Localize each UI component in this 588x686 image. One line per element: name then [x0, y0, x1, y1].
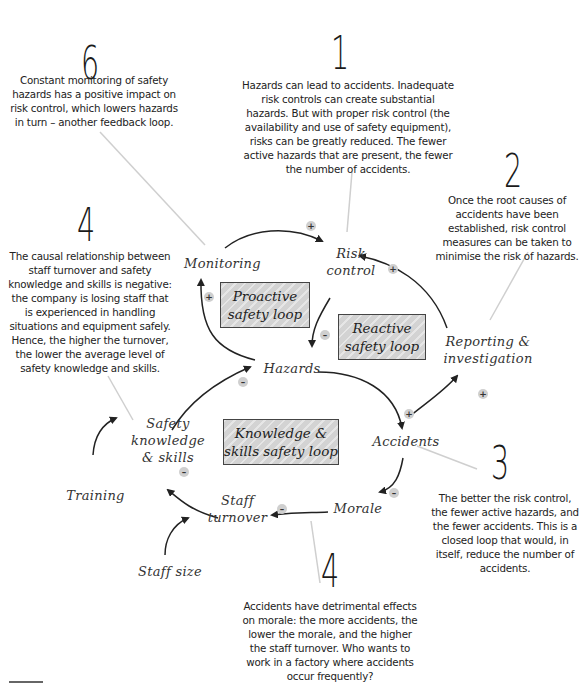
proactive-line1: Proactive	[228, 287, 303, 305]
polarity-hazards-to-accidents: +	[404, 409, 414, 419]
callout-1-text: Hazards can lead to accidents. Inadequat…	[242, 78, 454, 176]
node-risk-control: Risk control	[316, 245, 386, 279]
polarity-turnover-to-knowledge: –	[179, 467, 189, 477]
callout-1-number: 1	[331, 30, 350, 76]
footer-rule	[9, 681, 43, 683]
node-risk-control-line2: control	[316, 262, 386, 279]
proactive-line2: safety loop	[228, 305, 303, 323]
node-morale-label: Morale	[334, 501, 383, 516]
callout-5-text: The causal relationship between staff tu…	[8, 249, 172, 375]
node-risk-control-line1: Risk	[316, 245, 386, 262]
node-staff-size: Staff size	[125, 563, 215, 580]
node-hazards: Hazards	[257, 360, 327, 377]
polarity-hazards-to-monitoring: +	[204, 292, 214, 302]
node-knowledge-line2: knowledge	[128, 432, 208, 449]
polarity-accidents-to-morale: –	[389, 488, 399, 498]
callout-5-number: 5	[77, 202, 96, 248]
node-knowledge-line1: Safety	[128, 415, 208, 432]
polarity-knowledge-to-hazards: –	[238, 377, 248, 387]
callout-4-text: Accidents have detrimental effects on mo…	[240, 599, 420, 683]
node-training-label: Training	[66, 488, 124, 503]
polarity-risk-to-hazards: –	[320, 330, 330, 340]
node-reporting-line2: investigation	[438, 350, 538, 367]
callout-3-text: The better the risk control, the fewer a…	[430, 491, 580, 575]
polarity-accidents-to-reporting: +	[478, 389, 488, 399]
node-staff-size-label: Staff size	[138, 564, 202, 579]
node-hazards-label: Hazards	[264, 361, 321, 376]
knowledge-loop-line1: Knowledge &	[224, 424, 338, 442]
node-staff-turnover: Staff turnover	[200, 492, 275, 526]
reactive-safety-loop-box: Reactivesafety loop	[338, 314, 426, 360]
node-morale: Morale	[328, 500, 388, 517]
callout-3-number: 3	[491, 440, 510, 486]
proactive-safety-loop-box: Proactivesafety loop	[220, 282, 310, 328]
node-turnover-line2: turnover	[200, 509, 275, 526]
node-training: Training	[58, 487, 133, 504]
callout-2-text: Once the root causes of accidents have b…	[433, 193, 581, 263]
node-knowledge-line3: & skills	[128, 449, 208, 466]
node-safety-knowledge-skills: Safety knowledge & skills	[128, 415, 208, 466]
knowledge-loop-line2: skills safety loop	[224, 442, 338, 460]
callout-4-number: 4	[321, 548, 340, 594]
node-monitoring-label: Monitoring	[184, 256, 261, 271]
node-accidents-label: Accidents	[372, 434, 439, 449]
node-turnover-line1: Staff	[200, 492, 275, 509]
node-reporting-investigation: Reporting & investigation	[438, 333, 538, 367]
callout-6-text: Constant monitoring of safety hazards ha…	[10, 73, 178, 129]
reactive-line1: Reactive	[345, 319, 420, 337]
node-monitoring: Monitoring	[180, 255, 265, 272]
knowledge-skills-safety-loop-box: Knowledge &skills safety loop	[223, 419, 339, 465]
callout-2-number: 2	[504, 148, 523, 194]
polarity-reporting-to-risk: +	[388, 264, 398, 274]
node-reporting-line1: Reporting &	[438, 333, 538, 350]
polarity-monitoring-to-risk: +	[306, 221, 316, 231]
polarity-morale-to-turnover: –	[277, 504, 287, 514]
reactive-line2: safety loop	[345, 337, 420, 355]
node-accidents: Accidents	[366, 433, 446, 450]
